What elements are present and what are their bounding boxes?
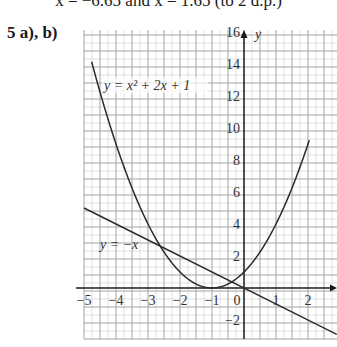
y-tick-label: −2 [225, 313, 240, 328]
y-axis-arrow-icon [241, 30, 248, 38]
x-tick-label: 0 [234, 293, 241, 308]
x-tick-label: −1 [205, 293, 220, 308]
x-tick-label: −3 [141, 293, 156, 308]
curve-labels: y = x² + 2x + 1y = −x [98, 77, 208, 252]
y-tick-label: 12 [226, 89, 240, 104]
graph: −5−4−3−2−1012−2246810121416y y = x² + 2x… [0, 0, 337, 347]
parabola-curve [92, 62, 310, 288]
x-tick-label: −2 [173, 293, 188, 308]
x-tick-label: 2 [305, 293, 312, 308]
line-label: y = −x [98, 237, 139, 252]
y-tick-label: 8 [233, 153, 240, 168]
x-tick-label: −5 [77, 293, 92, 308]
y-tick-label: 2 [233, 249, 240, 264]
y-tick-label: 10 [226, 121, 240, 136]
x-tick-label: −4 [109, 293, 124, 308]
y-tick-label: 16 [226, 25, 240, 40]
y-tick-label: 4 [233, 217, 240, 232]
y-tick-label: 14 [226, 57, 240, 72]
x-tick-label: 1 [273, 293, 280, 308]
x-axis-arrow-icon [330, 285, 337, 292]
y-tick-label: 6 [233, 185, 240, 200]
parabola-label: y = x² + 2x + 1 [102, 78, 190, 93]
y-axis-label: y [253, 27, 262, 42]
